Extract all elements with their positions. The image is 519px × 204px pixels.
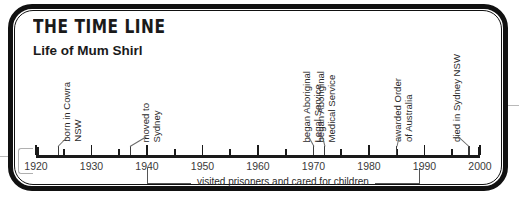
span-bracket-left-bar [147,183,191,184]
event-label: born in Cowra NSW [62,82,83,142]
event-label: died in Sydney NSW [452,54,463,142]
event-tick [396,146,397,155]
axis-tick-major [35,145,37,155]
axis-tick-major [257,145,259,155]
event-tick [58,146,59,155]
axis-tick-major [202,145,204,155]
axis-tick-minor [285,149,287,155]
span-bracket-left-leg [147,168,148,184]
event-label: began Aboriginal Medical Service [316,71,337,142]
axis-year-label: 2000 [468,160,491,172]
axis-tick-major [146,145,148,155]
span-bracket-right-leg [419,168,420,184]
axis-year-label: 1960 [246,160,269,172]
span-bracket-label: visited prisoners and cared for children [197,176,369,187]
axis-year-label: 1950 [191,160,214,172]
axis-year-label: 1920 [24,160,47,172]
axis-tick-minor [340,149,342,155]
event-tick [324,146,325,155]
axis-tick-minor [174,149,176,155]
axis-tick-minor [63,149,65,155]
event-tick [468,146,469,155]
axis-year-label: 1980 [357,160,380,172]
axis-tick-major [91,145,93,155]
event-tick [130,146,131,155]
timeline-axis-line [36,155,480,158]
span-bracket-right-bar [375,183,419,184]
axis-tick-major [424,145,426,155]
axis-tick-major [479,145,481,155]
axis-year-label: 1970 [302,160,325,172]
event-label: awarded Order of Australia [393,78,414,142]
axis-year-label: 1930 [80,160,103,172]
event-tick [313,146,314,155]
timeline-plot: 192019301940195019601970198019902000 bor… [0,0,519,204]
axis-tick-major [368,145,370,155]
axis-tick-minor [451,149,453,155]
axis-tick-minor [118,149,120,155]
axis-tick-minor [229,149,231,155]
axis-year-label: 1990 [413,160,436,172]
